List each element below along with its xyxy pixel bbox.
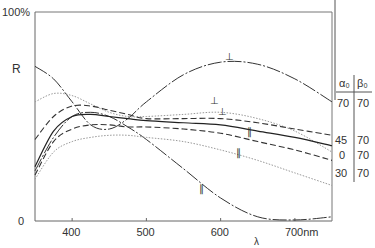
curve-annotation: ⊥	[218, 106, 227, 117]
series-line-4	[35, 114, 332, 166]
series-line-6	[35, 135, 332, 185]
y-min-label: 0	[18, 215, 24, 227]
legend-header-alpha: α₀	[339, 77, 350, 89]
legend-alpha-3: 30	[335, 167, 347, 179]
x-tick-label: 500	[136, 226, 154, 238]
x-axis-label: λ	[254, 236, 259, 247]
curve-annotations: ⊥⊥⊥∥∥∥	[199, 51, 252, 195]
curve-annotation: ∥	[247, 126, 252, 138]
curve-annotation: ∥	[199, 183, 204, 195]
legend-beta-1: 70	[357, 134, 369, 146]
x-tick-label: 700nm	[285, 226, 319, 238]
curve-annotation: ⊥	[225, 51, 234, 62]
data-series	[35, 61, 332, 220]
legend-beta-0: 70	[357, 97, 369, 109]
reflectance-chart: 400500600700nm ⊥⊥⊥∥∥∥ 100% R 0 λ α₀ β₀ 7…	[0, 0, 375, 248]
legend-table: α₀ β₀ 70 70 45 70 0 70 30 70	[335, 0, 372, 182]
curve-annotation: ∥	[236, 147, 241, 159]
series-line-0	[35, 61, 332, 129]
x-tick-label: 400	[62, 226, 80, 238]
legend-alpha-2: 0	[339, 149, 345, 161]
legend-alpha-0: 70	[337, 97, 349, 109]
legend-alpha-1: 45	[335, 134, 347, 146]
y-max-label: 100%	[2, 6, 30, 18]
legend-header-beta: β₀	[357, 77, 368, 89]
x-tick-label: 600	[211, 226, 229, 238]
series-line-5	[35, 124, 332, 175]
curve-annotation: ⊥	[210, 95, 219, 106]
y-axis-label: R	[12, 62, 21, 76]
legend-beta-3: 70	[357, 167, 369, 179]
legend-beta-2: 70	[357, 149, 369, 161]
plot-frame	[35, 12, 332, 221]
